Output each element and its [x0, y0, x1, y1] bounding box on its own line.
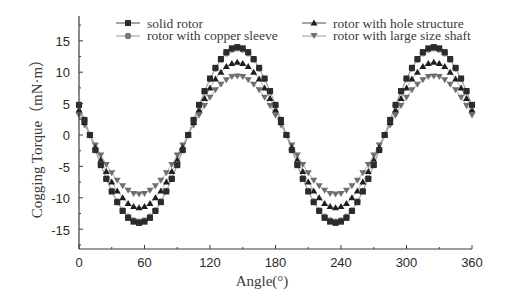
triangle-down-data-marker: [261, 95, 268, 101]
triangle-up-data-marker: [108, 179, 115, 185]
square-data-marker: [294, 162, 300, 168]
square-data-marker: [147, 215, 153, 221]
square-data-marker: [283, 132, 289, 138]
series-line: [79, 47, 472, 223]
triangle-up-data-marker: [359, 179, 366, 185]
square-data-marker: [240, 45, 246, 51]
square-data-marker: [120, 208, 126, 214]
triangle-up-data-marker: [327, 203, 334, 209]
x-tick-label: 360: [461, 255, 483, 270]
square-data-marker: [316, 208, 322, 214]
square-data-marker: [365, 176, 371, 182]
square-data-marker: [131, 219, 137, 225]
triangle-up-data-marker: [305, 179, 312, 185]
square-data-marker: [464, 88, 470, 94]
square-data-marker: [207, 75, 213, 81]
y-tick-label: -10: [51, 191, 70, 206]
square-data-marker: [218, 56, 224, 62]
square-data-marker: [142, 219, 148, 225]
square-data-marker: [251, 56, 257, 62]
square-data-marker: [163, 189, 169, 195]
square-data-marker: [300, 176, 306, 182]
series-line: [79, 48, 472, 221]
square-marker-icon: [125, 20, 131, 26]
cogging-torque-chart: 15 10 5 0 -5 -10 -15 0 60 120 180 240 30…: [0, 0, 526, 307]
square-data-marker: [202, 88, 208, 94]
square-data-marker: [376, 147, 382, 153]
legend: solid rotor rotor with copper sleeve rot…: [116, 16, 471, 43]
triangle-down-data-marker: [332, 192, 339, 198]
x-tick-label: 240: [330, 255, 352, 270]
square-data-marker: [420, 49, 426, 55]
square-data-marker: [469, 102, 475, 108]
x-tick-labels: 0 60 120 180 240 300 360: [75, 255, 482, 270]
x-axis-title: Angle(°): [236, 273, 289, 290]
square-data-marker: [354, 199, 360, 205]
square-data-marker: [267, 88, 273, 94]
triangle-down-data-marker: [403, 95, 410, 101]
square-data-marker: [453, 65, 459, 71]
square-data-marker: [393, 102, 399, 108]
square-data-marker: [180, 147, 186, 153]
y-tick-label: 5: [63, 97, 70, 112]
triangle-down-data-marker: [228, 74, 235, 80]
x-tick-label: 60: [137, 255, 151, 270]
x-tick-label: 180: [265, 255, 287, 270]
triangle-up-data-marker: [430, 59, 437, 65]
y-tick-label: 15: [56, 34, 70, 49]
square-data-marker: [273, 102, 279, 108]
square-data-marker: [98, 162, 104, 168]
triangle-up-data-marker: [441, 63, 448, 69]
series-line: [79, 76, 472, 194]
square-data-marker: [223, 49, 229, 55]
triangle-down-data-marker: [343, 188, 350, 194]
triangle-down-data-marker: [146, 188, 153, 194]
square-data-marker: [158, 199, 164, 205]
triangle-down-data-marker: [425, 74, 432, 80]
square-data-marker: [327, 219, 333, 225]
square-data-marker: [185, 132, 191, 138]
square-data-marker: [458, 75, 464, 81]
square-data-marker: [136, 220, 142, 226]
triangle-up-data-marker: [338, 203, 345, 209]
square-data-marker: [191, 117, 197, 123]
y-tick-label: -15: [51, 223, 70, 238]
square-data-marker: [92, 147, 98, 153]
square-data-marker: [289, 147, 295, 153]
square-data-marker: [114, 199, 120, 205]
square-data-marker: [262, 75, 268, 81]
square-data-marker: [360, 189, 366, 195]
triangle-up-data-marker: [163, 179, 170, 185]
y-axis-title: Cogging Torque（mN·m）: [29, 52, 45, 219]
square-data-marker: [103, 176, 109, 182]
y-tick-label: -5: [58, 160, 70, 175]
triangle-up-data-marker: [223, 63, 230, 69]
square-data-marker: [431, 44, 437, 50]
square-data-marker: [125, 215, 131, 221]
x-tick-label: 120: [199, 255, 221, 270]
triangle-up-data-marker: [419, 63, 426, 69]
square-data-marker: [382, 132, 388, 138]
x-tick-label: 0: [75, 255, 82, 270]
axes: [79, 16, 472, 249]
square-data-marker: [333, 220, 339, 226]
square-data-marker: [212, 65, 218, 71]
square-data-marker: [196, 102, 202, 108]
square-data-marker: [442, 49, 448, 55]
triangle-down-data-marker: [136, 192, 143, 198]
square-data-marker: [349, 208, 355, 214]
square-data-marker: [447, 56, 453, 62]
square-data-marker: [234, 44, 240, 50]
square-data-marker: [436, 45, 442, 51]
triangle-down-data-marker: [321, 188, 328, 194]
triangle-down-data-marker: [469, 112, 476, 118]
legend-label: rotor with large size shaft: [333, 28, 471, 43]
square-data-marker: [425, 45, 431, 51]
triangle-down-data-marker: [207, 95, 214, 101]
series-markers: [76, 44, 476, 226]
square-data-marker: [109, 189, 115, 195]
square-data-marker: [409, 65, 415, 71]
legend-item-copper-sleeve: rotor with copper sleeve: [116, 28, 278, 43]
triangle-down-data-marker: [458, 95, 465, 101]
series-lines: [79, 47, 472, 223]
